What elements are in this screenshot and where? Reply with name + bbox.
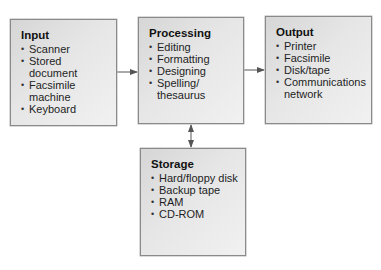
input-list: Scanner Stored document Facsimile machin… xyxy=(21,43,116,115)
output-item-disk-tape: Disk/tape xyxy=(276,64,371,76)
storage-box: Storage Hard/floppy disk Backup tape RAM… xyxy=(140,148,246,256)
storage-item-backup-tape: Backup tape xyxy=(151,184,245,196)
output-title: Output xyxy=(276,26,371,39)
input-item-keyboard: Keyboard xyxy=(21,103,116,115)
processing-box: Processing Editing Formatting Designing … xyxy=(138,17,244,124)
processing-title: Processing xyxy=(149,27,243,40)
processing-list: Editing Formatting Designing Spelling/ t… xyxy=(149,41,243,101)
storage-item-hard-floppy-disk: Hard/floppy disk xyxy=(151,172,245,184)
processing-item-spelling-thesaurus: Spelling/ thesaurus xyxy=(149,77,217,101)
input-item-stored-document: Stored document xyxy=(21,55,101,79)
processing-item-formatting: Formatting xyxy=(149,53,243,65)
output-item-printer: Printer xyxy=(276,40,371,52)
output-box: Output Printer Facsimile Disk/tape Commu… xyxy=(265,16,372,124)
storage-item-ram: RAM xyxy=(151,196,245,208)
processing-item-editing: Editing xyxy=(149,41,243,53)
input-item-facsimile-machine: Facsimile machine xyxy=(21,79,101,103)
input-box: Input Scanner Stored document Facsimile … xyxy=(10,19,117,126)
input-item-scanner: Scanner xyxy=(21,43,116,55)
processing-item-designing: Designing xyxy=(149,65,243,77)
storage-title: Storage xyxy=(151,158,245,171)
output-item-facsimile: Facsimile xyxy=(276,52,371,64)
storage-item-cd-rom: CD-ROM xyxy=(151,208,245,220)
output-item-communications-network: Communications network xyxy=(276,76,374,100)
storage-list: Hard/floppy disk Backup tape RAM CD-ROM xyxy=(151,172,245,220)
input-title: Input xyxy=(21,29,116,42)
output-list: Printer Facsimile Disk/tape Communicatio… xyxy=(276,40,371,100)
